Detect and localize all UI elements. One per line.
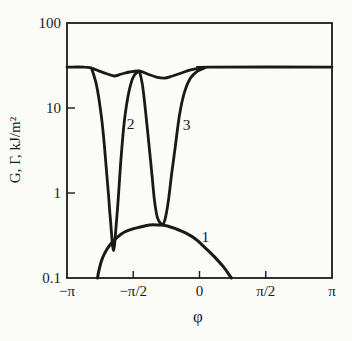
y-tick-label: 1	[54, 185, 62, 201]
axis-ticks	[67, 108, 266, 278]
y-tick-label: 0.1	[42, 270, 61, 286]
x-tick-label: 0	[196, 283, 204, 299]
figure-plot-scan: 123 −π−π/20π/2π1001010.1 G, Γ, kJ/m² φ	[0, 0, 352, 341]
y-tick-label: 100	[39, 15, 62, 31]
x-tick-label: π	[328, 283, 336, 299]
x-tick-label: −π/2	[119, 283, 147, 299]
curve-3-notch	[139, 68, 204, 224]
curve-label-2: 2	[127, 115, 135, 132]
curve-label-3: 3	[183, 116, 191, 133]
x-axis-title: φ	[193, 307, 203, 326]
tick-labels: −π−π/20π/2π1001010.1	[39, 15, 337, 299]
x-tick-label: π/2	[256, 283, 275, 299]
y-axis-title: G, Γ, kJ/m²	[7, 116, 23, 183]
y-tick-label: 10	[46, 100, 61, 116]
curve-label-1: 1	[202, 228, 210, 245]
data-curves	[67, 67, 332, 278]
curve-1-dome	[97, 225, 231, 278]
curve-2-notch	[92, 68, 140, 251]
plot-frame	[67, 23, 332, 278]
x-tick-label: −π	[59, 283, 75, 299]
chart-canvas: 123 −π−π/20π/2π1001010.1 G, Γ, kJ/m² φ	[0, 0, 352, 341]
